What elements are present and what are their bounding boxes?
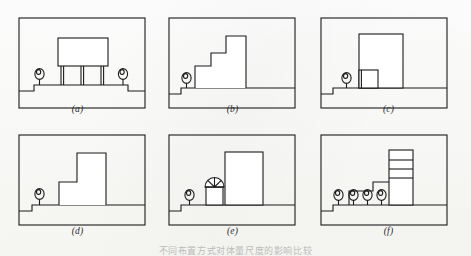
panel-row-bottom: (d) [0,125,471,250]
panel-label-d: (d) [0,226,155,236]
panel-label-e: (e) [155,226,310,236]
stepped-blocks [59,153,106,205]
human-figure-left [35,69,44,85]
panel-e[interactable]: (e) [155,125,310,253]
human-figure-left [35,189,44,205]
panel-d[interactable]: (d) [0,125,155,253]
ground-line [321,205,447,211]
panel-label-c: (c) [311,104,466,114]
tall-block [225,152,263,205]
panel-label-a: (a) [0,104,155,114]
panel-label-b: (b) [155,104,310,114]
stepped-blocks [195,36,246,88]
panel-frame [321,135,447,225]
panel-row-top: (a) (b) [0,0,471,128]
panel-c[interactable]: (c) [311,0,466,128]
human-figure-left [182,73,191,88]
panel-b[interactable]: (b) [155,0,310,128]
ground-line [169,205,295,211]
slab-block [58,38,108,66]
human-figure-4 [377,190,386,205]
panel-a[interactable]: (a) [0,0,155,128]
ground-line [19,85,145,91]
figure-caption: 不同布置方式对体量尺度的影响比较 [0,244,471,256]
human-figure-2 [349,190,358,205]
human-figure-3 [363,190,372,205]
ground-line [169,88,295,94]
ground-line [321,88,447,94]
panel-f[interactable]: (f) [311,125,466,253]
panel-label-f: (f) [311,226,466,236]
human-figure-1 [334,190,343,205]
human-figure-right [118,69,127,85]
human-figure-left [342,73,351,88]
figure-sheet: (a) (b) [0,0,471,256]
human-figure-left [185,190,194,205]
ground-line [19,205,145,211]
pavilion-box [206,187,223,205]
